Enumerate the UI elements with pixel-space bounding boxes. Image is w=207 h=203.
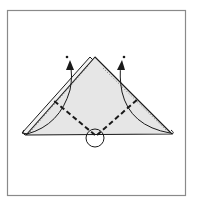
target-dot-right xyxy=(123,56,126,59)
origami-diagram xyxy=(0,0,207,203)
target-dot-left xyxy=(66,56,69,59)
